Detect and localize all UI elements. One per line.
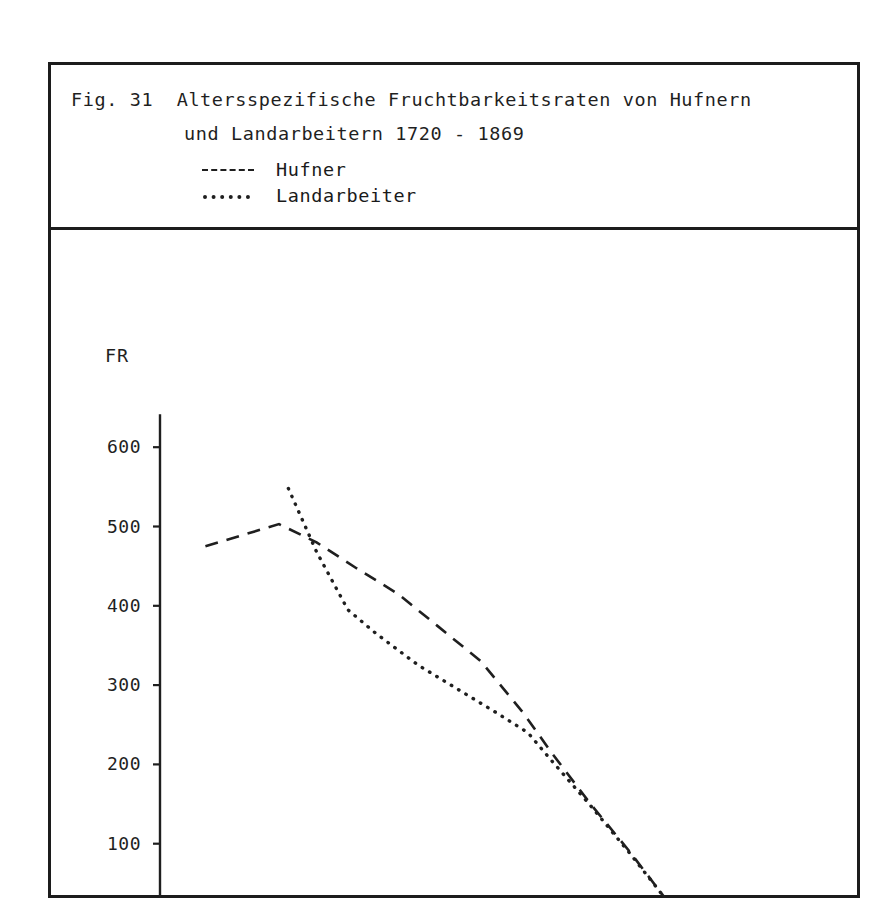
- legend-label-landarbeiter: Landarbeiter: [276, 185, 417, 206]
- legend-item-landarbeiter: Landarbeiter: [202, 185, 417, 206]
- y-axis-title-text: FR: [105, 345, 129, 366]
- y-tick-label: 500: [107, 516, 141, 537]
- caption-block: Fig. 31 Altersspezifische Fruchtbarkeits…: [51, 65, 857, 230]
- data-series-group: [205, 488, 668, 898]
- fertility-rate-line-chart: FR Alter 100200300400500600 152025303540…: [51, 230, 857, 898]
- series-line-hufner: [205, 524, 668, 898]
- y-tick-label: 400: [107, 595, 141, 616]
- figure-caption-line-1: Fig. 31 Altersspezifische Fruchtbarkeits…: [71, 89, 752, 110]
- figure-caption-line-2: und Landarbeitern 1720 - 1869: [184, 123, 524, 144]
- legend-dotted-line-icon: [202, 189, 254, 203]
- series-line-landarbeiter: [288, 488, 668, 898]
- y-axis-ticks: 100200300400500600: [107, 436, 160, 854]
- legend-item-hufner: Hufner: [202, 159, 346, 180]
- y-tick-label: 600: [107, 436, 141, 457]
- legend-dashed-line-icon: [202, 163, 254, 177]
- axis-lines: [160, 415, 708, 898]
- plot-area: FR Alter 100200300400500600 152025303540…: [51, 230, 857, 898]
- y-tick-label: 300: [107, 674, 141, 695]
- y-tick-label: 200: [107, 753, 141, 774]
- figure-frame: Fig. 31 Altersspezifische Fruchtbarkeits…: [48, 62, 860, 898]
- y-tick-label: 100: [107, 833, 141, 854]
- legend-label-hufner: Hufner: [276, 159, 346, 180]
- y-axis-title: FR: [105, 345, 129, 366]
